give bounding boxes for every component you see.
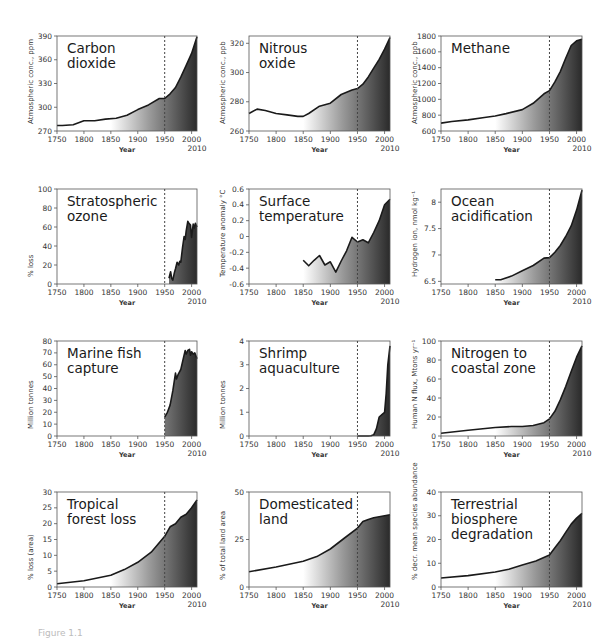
- y-tick-label: 10: [42, 420, 52, 429]
- x-tick-label: 1800: [74, 440, 93, 449]
- y-axis-label: Temperature anomaly °C: [219, 189, 227, 276]
- x-tick-label: 2000: [182, 288, 201, 297]
- x-tick-label: 1750: [431, 440, 450, 449]
- x-tick-label: 1850: [294, 135, 313, 144]
- x-tick-label: 1800: [459, 288, 478, 297]
- y-tick-label: 40: [426, 394, 436, 403]
- series-area: [165, 349, 197, 436]
- y-tick-label: 300: [230, 68, 245, 77]
- y-tick-label: 20: [42, 408, 52, 417]
- y-tick-label: 1: [239, 408, 244, 417]
- y-tick-label: 360: [38, 55, 53, 64]
- y-tick-label: 0: [239, 232, 244, 241]
- y-tick-label: 100: [422, 337, 437, 346]
- x-tick-label: 1900: [513, 288, 532, 297]
- y-tick-label: 30: [426, 511, 436, 520]
- x-tick-label: 1900: [128, 591, 147, 600]
- y-tick-label: 25: [234, 535, 244, 544]
- y-tick-label: 4: [239, 337, 244, 346]
- x-tick-label: 1850: [294, 591, 313, 600]
- x-tick-label: 1800: [267, 288, 286, 297]
- y-tick-label: 0.2: [232, 216, 244, 225]
- x-tick-label: 1750: [239, 591, 258, 600]
- chart-title: Terrestrial biosphere degradation: [451, 497, 533, 542]
- x-tick-label: 1950: [540, 440, 559, 449]
- chart-title: Shrimp aquaculture: [259, 346, 340, 376]
- x-tick-label-2010: 2010: [380, 297, 399, 306]
- x-tick-label: 1800: [74, 288, 93, 297]
- y-tick-label: 1800: [417, 32, 436, 41]
- chart-title: Surface temperature: [259, 194, 344, 224]
- x-tick-label: 1750: [47, 288, 66, 297]
- y-tick-label: 1200: [417, 79, 436, 88]
- x-tick-label: 1950: [348, 440, 367, 449]
- y-tick-label: 40: [42, 242, 52, 251]
- chart-panel-n2o: 2602803003201750180018501900195020002010…: [249, 36, 390, 131]
- x-tick-label: 1900: [128, 288, 147, 297]
- y-axis-label: Million tonnes: [219, 380, 227, 429]
- x-axis-label: Year: [119, 146, 135, 154]
- x-tick-label: 1800: [267, 591, 286, 600]
- x-tick-label: 1750: [431, 591, 450, 600]
- y-tick-label: 330: [38, 79, 53, 88]
- y-tick-label: 40: [426, 488, 436, 497]
- chart-panel-land: 025501750180018501900195020002010Domesti…: [249, 492, 390, 587]
- y-tick-label: 6.5: [424, 277, 436, 286]
- chart-title: Nitrogen to coastal zone: [451, 346, 536, 376]
- x-tick-label: 1850: [101, 288, 120, 297]
- y-tick-label: 1000: [417, 95, 436, 104]
- x-tick-label-2010: 2010: [380, 600, 399, 609]
- x-axis-label: Year: [504, 146, 520, 154]
- x-tick-label: 1800: [267, 440, 286, 449]
- x-tick-label: 2000: [375, 440, 394, 449]
- x-tick-label: 1950: [155, 591, 174, 600]
- x-axis-label: Year: [504, 602, 520, 610]
- x-tick-label: 1950: [540, 591, 559, 600]
- series-area: [357, 346, 390, 436]
- chart-title: Domesticated land: [259, 497, 353, 527]
- chart-panel-co2: 2703003303603901750180018501900195020002…: [57, 36, 197, 131]
- x-tick-label: 1950: [155, 440, 174, 449]
- y-tick-label: 0.6: [232, 185, 244, 194]
- y-tick-label: -0.4: [229, 264, 244, 273]
- x-tick-label: 1800: [267, 135, 286, 144]
- x-tick-label: 1850: [486, 591, 505, 600]
- x-axis-label: Year: [312, 299, 328, 307]
- x-tick-label: 2000: [182, 591, 201, 600]
- chart-title: Marine fish capture: [67, 346, 141, 376]
- x-tick-label-2010: 2010: [572, 144, 591, 153]
- y-tick-label: 3: [239, 360, 244, 369]
- y-tick-label: 10: [42, 551, 52, 560]
- x-tick-label: 1950: [155, 288, 174, 297]
- x-tick-label: 1800: [74, 591, 93, 600]
- x-tick-label: 1850: [101, 440, 120, 449]
- x-tick-label-2010: 2010: [380, 449, 399, 458]
- y-tick-label: 40: [42, 384, 52, 393]
- x-tick-label: 1900: [513, 591, 532, 600]
- x-tick-label-2010: 2010: [187, 144, 206, 153]
- y-tick-label: 2: [239, 384, 244, 393]
- y-axis-label: Atmospheric conc., ppm: [27, 38, 35, 123]
- y-tick-label: 5: [47, 567, 52, 576]
- y-tick-label: 1400: [417, 63, 436, 72]
- y-tick-label: 20: [426, 413, 436, 422]
- x-tick-label: 2000: [567, 288, 586, 297]
- x-tick-label: 1850: [486, 440, 505, 449]
- figure-caption: Figure 1.1: [38, 628, 83, 638]
- x-tick-label: 1850: [294, 440, 313, 449]
- x-tick-label: 1900: [128, 135, 147, 144]
- y-tick-label: 80: [42, 337, 52, 346]
- x-tick-label: 1950: [540, 135, 559, 144]
- x-tick-label-2010: 2010: [572, 600, 591, 609]
- chart-panel-ch4: 6008001000120014001600180017501800185019…: [441, 36, 582, 131]
- y-tick-label: -0.2: [229, 248, 244, 257]
- y-tick-label: 0.4: [232, 200, 244, 209]
- chart-panel-ozone: 0204060801001750180018501900195020002010…: [57, 189, 197, 284]
- y-tick-label: 60: [426, 375, 436, 384]
- x-tick-label: 1850: [294, 288, 313, 297]
- x-tick-label: 1950: [540, 288, 559, 297]
- chart-panel-forest: 0510152025301750180018501900195020002010…: [57, 492, 197, 587]
- x-tick-label: 1900: [321, 288, 340, 297]
- y-tick-label: 10: [426, 559, 436, 568]
- y-tick-label: 320: [230, 39, 245, 48]
